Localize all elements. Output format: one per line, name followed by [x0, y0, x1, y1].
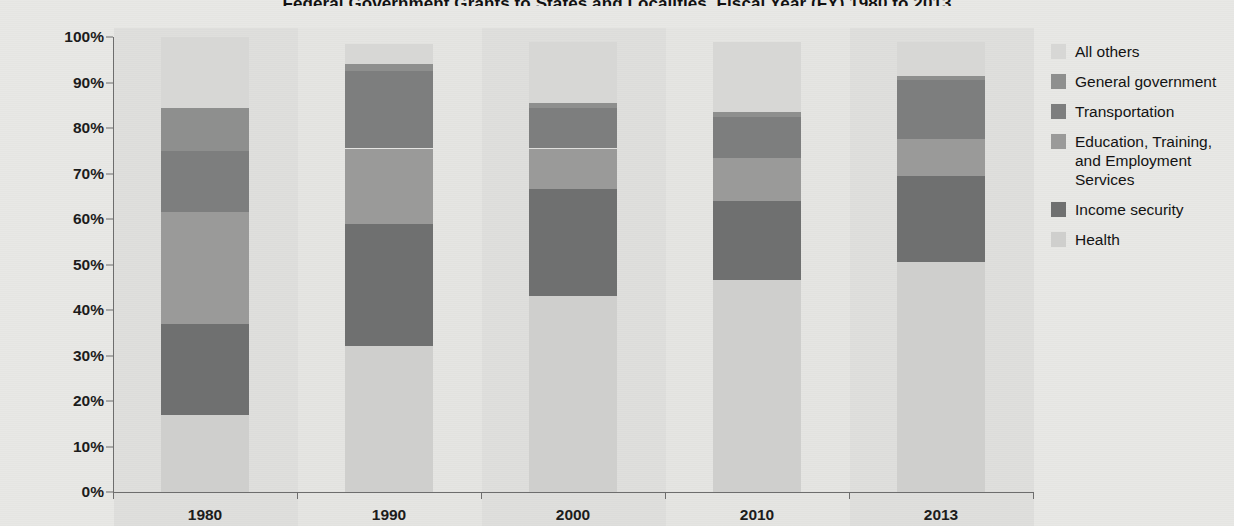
legend-item-label: Education, Training, and Employment Serv… — [1075, 132, 1231, 189]
legend-item-label: Health — [1075, 230, 1120, 249]
legend-item-label: General government — [1075, 72, 1216, 91]
x-tick-mark — [1033, 492, 1034, 499]
bar-segment[interactable] — [713, 158, 801, 201]
bar-column-2010[interactable] — [713, 37, 801, 492]
legend-item-label: Income security — [1075, 200, 1184, 219]
bar-column-2000[interactable] — [529, 37, 617, 492]
bar-segment[interactable] — [161, 415, 249, 492]
x-tick-label-2013: 2013 — [924, 506, 958, 524]
y-tick-mark — [106, 401, 113, 402]
y-axis-line — [113, 37, 114, 492]
y-tick-mark — [106, 173, 113, 174]
y-tick-mark — [106, 492, 113, 493]
y-tick-mark — [106, 128, 113, 129]
bar-segment[interactable] — [161, 108, 249, 151]
legend-item[interactable]: All others — [1051, 42, 1231, 61]
x-tick-mark — [481, 492, 482, 499]
chart-legend: All othersGeneral governmentTransportati… — [1051, 42, 1231, 260]
x-tick-mark — [113, 492, 114, 499]
bar-segment[interactable] — [897, 76, 985, 81]
legend-item[interactable]: Income security — [1051, 200, 1231, 219]
bar-segment[interactable] — [897, 42, 985, 76]
x-tick-label-1990: 1990 — [372, 506, 406, 524]
bar-segment[interactable] — [345, 71, 433, 148]
y-tick-label: 100% — [64, 28, 104, 46]
bar-segment[interactable] — [345, 346, 433, 492]
y-tick-label: 90% — [73, 74, 104, 92]
legend-swatch-icon — [1051, 104, 1066, 119]
y-tick-label: 0% — [82, 483, 104, 501]
bar-segment[interactable] — [345, 44, 433, 64]
chart-page: Federal Government Grants to States and … — [0, 0, 1234, 526]
bar-segment[interactable] — [897, 176, 985, 262]
x-tick-label-1980: 1980 — [188, 506, 222, 524]
legend-swatch-icon — [1051, 134, 1066, 149]
bar-segment[interactable] — [897, 139, 985, 175]
y-tick-mark — [106, 37, 113, 38]
y-tick-mark — [106, 82, 113, 83]
y-tick-mark — [106, 219, 113, 220]
y-tick-label: 70% — [73, 165, 104, 183]
bar-segment[interactable] — [345, 149, 433, 224]
bar-column-2013[interactable] — [897, 37, 985, 492]
legend-item[interactable]: General government — [1051, 72, 1231, 91]
y-tick-label: 20% — [73, 392, 104, 410]
bar-segment[interactable] — [529, 189, 617, 296]
y-tick-label: 10% — [73, 438, 104, 456]
y-tick-label: 80% — [73, 119, 104, 137]
legend-item[interactable]: Health — [1051, 230, 1231, 249]
bar-segment[interactable] — [713, 42, 801, 113]
bar-segment[interactable] — [897, 80, 985, 139]
bar-segment[interactable] — [529, 42, 617, 103]
bar-segment[interactable] — [713, 280, 801, 492]
y-tick-mark — [106, 264, 113, 265]
legend-swatch-icon — [1051, 202, 1066, 217]
legend-swatch-icon — [1051, 232, 1066, 247]
bar-column-1980[interactable] — [161, 37, 249, 492]
bar-segment[interactable] — [529, 149, 617, 190]
bar-segment[interactable] — [529, 108, 617, 149]
bar-segment[interactable] — [897, 262, 985, 492]
legend-swatch-icon — [1051, 74, 1066, 89]
bar-segment[interactable] — [713, 117, 801, 158]
y-tick-label: 60% — [73, 210, 104, 228]
legend-item[interactable]: Transportation — [1051, 102, 1231, 121]
bar-segment[interactable] — [161, 324, 249, 415]
bar-segment[interactable] — [529, 103, 617, 108]
legend-item-label: Transportation — [1075, 102, 1174, 121]
bar-segment[interactable] — [713, 201, 801, 281]
bar-segment[interactable] — [345, 64, 433, 71]
y-tick-label: 30% — [73, 347, 104, 365]
x-axis-line — [113, 492, 1033, 493]
x-tick-label-2010: 2010 — [740, 506, 774, 524]
bar-segment[interactable] — [161, 37, 249, 108]
legend-item[interactable]: Education, Training, and Employment Serv… — [1051, 132, 1231, 189]
chart-title: Federal Government Grants to States and … — [0, 0, 1234, 6]
legend-item-label: All others — [1075, 42, 1140, 61]
plot-area: 0%10%20%30%40%50%60%70%80%90%100% 198019… — [113, 37, 1033, 492]
bar-segment[interactable] — [161, 212, 249, 323]
x-tick-mark — [665, 492, 666, 499]
y-tick-mark — [106, 446, 113, 447]
bar-segment[interactable] — [529, 296, 617, 492]
bar-segment[interactable] — [713, 112, 801, 117]
legend-swatch-icon — [1051, 44, 1066, 59]
y-tick-mark — [106, 355, 113, 356]
bar-column-1990[interactable] — [345, 37, 433, 492]
x-tick-mark — [297, 492, 298, 499]
y-tick-label: 50% — [73, 256, 104, 274]
bar-segment[interactable] — [161, 151, 249, 212]
x-tick-mark — [849, 492, 850, 499]
y-tick-mark — [106, 310, 113, 311]
bar-segment[interactable] — [345, 224, 433, 347]
y-tick-label: 40% — [73, 301, 104, 319]
x-tick-label-2000: 2000 — [556, 506, 590, 524]
